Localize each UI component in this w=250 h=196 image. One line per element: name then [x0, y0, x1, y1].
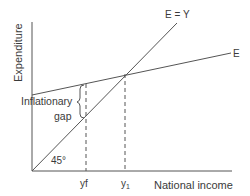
- e-label: E: [233, 48, 240, 59]
- y-axis-label: Expenditure: [12, 23, 24, 82]
- inflationary-gap-diagram: Expenditure National income E = Y E Infl…: [0, 0, 250, 196]
- y1-label: y1: [121, 178, 130, 190]
- yf-label: yf: [80, 178, 88, 189]
- angle-label: 45°: [51, 155, 66, 166]
- gap-label-line1: Inflationary: [21, 95, 73, 107]
- x-axis-label: National income: [154, 179, 233, 191]
- gap-brace-icon: [77, 85, 84, 118]
- gap-label-line2: gap: [54, 110, 72, 122]
- y1-subscript: 1: [126, 183, 130, 190]
- e-equals-y-label: E = Y: [165, 9, 190, 20]
- e-line: [32, 53, 231, 95]
